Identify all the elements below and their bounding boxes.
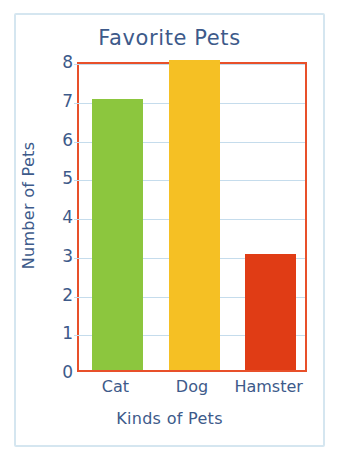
worksheet-page: Favorite Pets Number of Pets 012345678 C… <box>0 0 339 463</box>
y-axis-tick-label: 8 <box>47 52 73 72</box>
y-axis-tick-label: 5 <box>47 168 73 188</box>
y-axis-tick-label: 3 <box>47 246 73 266</box>
plot-area <box>77 62 307 372</box>
x-axis-label-hamster: Hamster <box>234 377 302 396</box>
y-axis-tick-labels: 012345678 <box>47 62 73 372</box>
y-axis-tick-label: 0 <box>47 362 73 382</box>
bar-cat <box>92 99 143 370</box>
x-axis-label-dog: Dog <box>176 377 208 396</box>
x-axis-label-cat: Cat <box>102 377 129 396</box>
y-axis-tick-label: 2 <box>47 285 73 305</box>
y-axis-title: Number of Pets <box>19 116 38 296</box>
y-axis-tick-label: 7 <box>47 91 73 111</box>
y-axis-tick-label: 4 <box>47 207 73 227</box>
chart-title: Favorite Pets <box>0 26 339 50</box>
bar-series <box>79 64 305 370</box>
y-axis-tick-label: 1 <box>47 323 73 343</box>
bar-dog <box>169 60 220 370</box>
x-axis-title: Kinds of Pets <box>0 409 339 428</box>
x-axis-category-labels: CatDogHamster <box>77 377 307 403</box>
y-axis-tick-label: 6 <box>47 130 73 150</box>
bar-hamster <box>245 254 296 370</box>
